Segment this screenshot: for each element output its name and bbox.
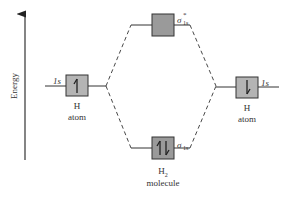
antibonding-sigma: σ [177,15,181,25]
molecule-name: H2 [158,167,168,178]
bonding-orbital-box [152,137,174,159]
antibonding-to-right-dashed [190,25,216,86]
antibonding-star: * [183,12,187,19]
bonding-sigma: σ [177,140,181,150]
left-to-bonding-dashed [106,86,131,148]
right-atom-name: H [244,104,251,113]
mo-diagram [0,0,290,198]
right-atom-orbital-text: 1s [261,78,269,88]
antibonding-orbital-box [152,14,174,36]
antibonding-label: σ * 1s [177,16,181,25]
bonding-to-right-dashed [190,86,216,148]
left-atom-name-line2: atom [68,113,86,122]
left-atom-orbital-text: 1s [53,76,61,86]
molecule-name-line2: molecule [147,179,180,188]
molecule-formula-sub: 2 [165,172,168,178]
bonding-subscript: 1s [183,145,188,151]
bonding-label: σ 1s [177,141,181,150]
left-atom-orbital-label: 1s [53,77,61,86]
right-atom-orbital-label: 1s [261,79,269,88]
left-atom-name: H [74,102,81,111]
energy-axis-label: Energy [9,73,19,99]
antibonding-subscript: 1s [183,20,188,26]
right-atom-name-line2: atom [238,115,256,124]
left-to-antibonding-dashed [106,25,131,86]
